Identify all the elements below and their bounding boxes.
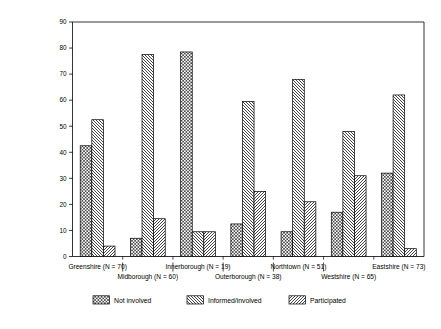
bar [304, 202, 316, 257]
bar [204, 232, 216, 257]
legend-label: Informed/involved [208, 297, 262, 304]
chart-figure: 0102030405060708090 Greenshire (N = 70)M… [0, 0, 441, 329]
bar [130, 238, 142, 256]
bar [231, 224, 243, 257]
bar-chart: 0102030405060708090 Greenshire (N = 70)M… [0, 0, 441, 329]
y-tick-label: 70 [59, 70, 67, 77]
category-label: Westshire (N = 65) [321, 273, 376, 281]
category-label: Innerborough (N = 19) [166, 263, 231, 271]
bar [192, 232, 204, 257]
bar [80, 146, 92, 257]
legend-swatch [289, 296, 306, 304]
y-tick-label: 50 [59, 123, 67, 130]
y-tick-label: 90 [59, 18, 67, 25]
bar [354, 176, 366, 257]
bar [181, 52, 193, 257]
bar [281, 232, 293, 257]
legend-swatch [187, 296, 204, 304]
legend-label: Not involved [114, 297, 152, 304]
bar [381, 173, 393, 256]
category-label: Northtown (N = 51) [271, 263, 327, 271]
bar [343, 131, 355, 256]
y-tick-label: 40 [59, 149, 67, 156]
y-tick-label: 80 [59, 44, 67, 51]
bar [393, 95, 405, 257]
bar [142, 55, 154, 257]
y-tick-label: 0 [63, 253, 67, 260]
bar [154, 219, 166, 257]
bar [92, 120, 104, 257]
y-tick-label: 20 [59, 201, 67, 208]
category-label: Eastshire (N = 73) [372, 263, 425, 271]
y-tick-label: 60 [59, 96, 67, 103]
category-label: Outerborough (N = 38) [215, 273, 282, 281]
legend-label: Participated [310, 297, 346, 305]
bar [103, 246, 115, 256]
category-label: Midborough (N = 60) [117, 273, 178, 281]
bar [331, 212, 343, 256]
bar [293, 79, 305, 256]
bar [405, 249, 417, 257]
legend-swatch [93, 296, 110, 304]
bar [254, 191, 266, 256]
y-tick-label: 10 [59, 227, 67, 234]
y-tick-label: 30 [59, 175, 67, 182]
bar [242, 101, 254, 256]
category-label: Greenshire (N = 70) [68, 263, 126, 271]
